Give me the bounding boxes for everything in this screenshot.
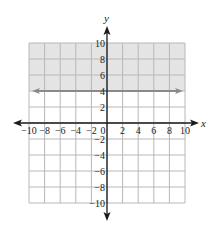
x-axis-label: x xyxy=(200,117,206,129)
x-tick-label: −8 xyxy=(39,125,50,136)
x-tick-label: 8 xyxy=(167,125,172,136)
y-tick-label: −6 xyxy=(94,166,105,177)
x-tick-label: 4 xyxy=(136,125,141,136)
y-tick-label: 4 xyxy=(100,86,105,97)
y-tick-label: 6 xyxy=(100,70,105,81)
x-tick-label: 10 xyxy=(180,125,190,136)
y-axis-label: y xyxy=(103,12,109,24)
x-tick-labels: −10−8−6−4−20246810 xyxy=(21,125,190,136)
y-tick-label: −2 xyxy=(94,134,105,145)
x-tick-label: −10 xyxy=(21,125,37,136)
x-tick-label: −4 xyxy=(70,125,81,136)
y-tick-label: 10 xyxy=(95,38,105,49)
y-tick-label: −8 xyxy=(94,182,105,193)
y-tick-label: 2 xyxy=(100,102,105,113)
coordinate-graph: −10−8−6−4−20246810 108642−2−4−6−8−10 x y xyxy=(0,0,213,233)
x-tick-label: 2 xyxy=(120,125,125,136)
x-tick-label: 6 xyxy=(151,125,156,136)
y-tick-label: 8 xyxy=(100,54,105,65)
y-tick-label: −10 xyxy=(89,198,105,209)
x-tick-label: −6 xyxy=(55,125,66,136)
y-tick-label: −4 xyxy=(94,150,105,161)
